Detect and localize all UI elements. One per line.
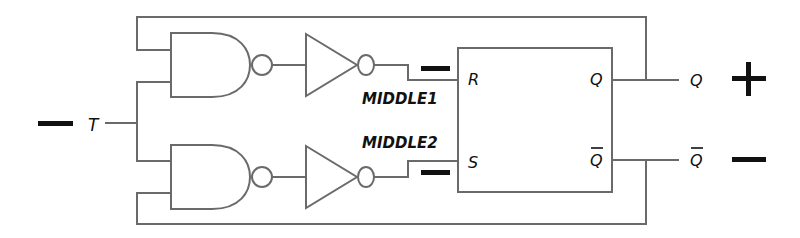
r-input-label: R <box>468 70 479 89</box>
inverter-top <box>306 34 357 96</box>
t-input-wires <box>105 82 171 161</box>
q-output-label: Q <box>690 71 703 90</box>
s-input-label: S <box>468 153 478 172</box>
nand-bubble-bottom <box>252 167 272 187</box>
nand-gate-top <box>171 33 250 97</box>
qbar-output-label: Q <box>690 151 703 170</box>
inverter-bubble-top <box>358 55 374 75</box>
middle1-minus-sign <box>421 66 450 71</box>
middle2-label: MIDDLE2 <box>362 134 438 152</box>
q-internal-label: Q <box>590 70 603 89</box>
qbar-internal-label: Q <box>590 151 603 170</box>
t-split-wire <box>137 82 171 161</box>
nand-gate-bottom <box>171 145 250 209</box>
q-plus-sign <box>732 62 766 96</box>
bottom-path <box>171 145 458 209</box>
qbar-minus-sign <box>732 157 766 162</box>
inverter-bottom <box>306 146 357 208</box>
circuit-diagram: T MIDDLE1 MIDDLE2 R S Q Q Q Q <box>0 0 800 238</box>
inverter-bubble-bottom <box>358 167 374 187</box>
top-path <box>171 33 458 97</box>
middle2-minus-sign <box>421 170 450 175</box>
nand-bubble-top <box>252 55 272 75</box>
middle1-label: MIDDLE1 <box>362 90 438 108</box>
sr-flipflop-box <box>458 48 612 192</box>
t-input-label: T <box>88 115 100 135</box>
t-minus-sign <box>38 121 73 126</box>
